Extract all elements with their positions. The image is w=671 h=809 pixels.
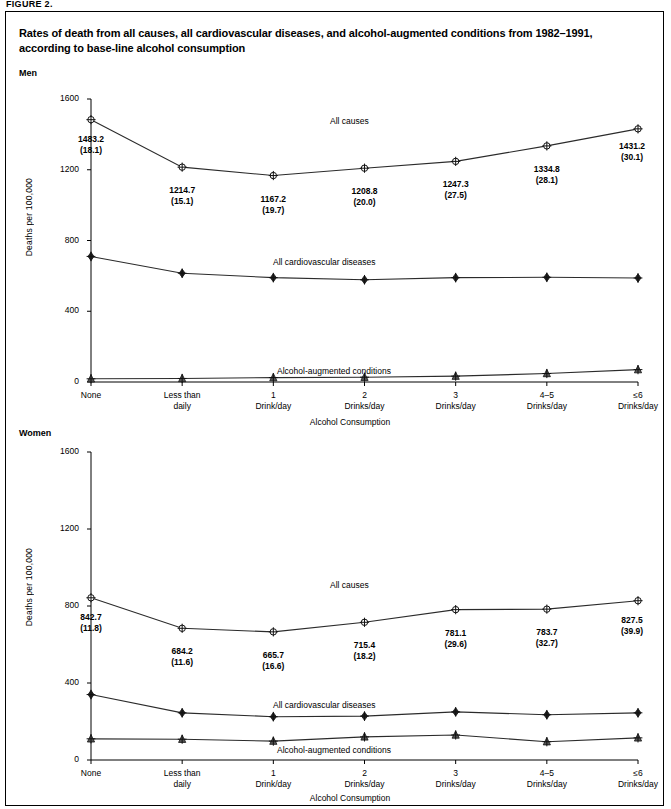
plot-svg: [0, 0, 671, 809]
